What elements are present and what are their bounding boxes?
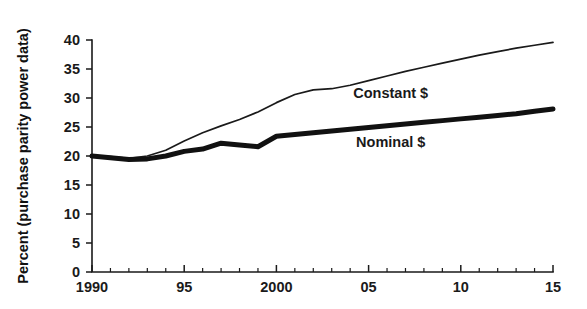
- y-tick-label: 20: [64, 148, 80, 164]
- line-chart: Percent (purchase parity power data) 051…: [0, 0, 587, 309]
- x-tick-label: 10: [453, 279, 469, 295]
- y-tick-label: 40: [64, 32, 80, 48]
- y-tick-label: 10: [64, 206, 80, 222]
- y-tick-label: 30: [64, 90, 80, 106]
- x-tick-label: 1990: [76, 279, 108, 295]
- x-tick-label: 95: [176, 279, 192, 295]
- x-tick-label: 2000: [260, 279, 292, 295]
- y-tick-label: 0: [72, 264, 80, 280]
- y-tick-label: 5: [72, 235, 80, 251]
- series-line-constant: [92, 42, 553, 158]
- y-axis-ticks: 0510152025303540: [64, 32, 92, 280]
- y-tick-label: 35: [64, 61, 80, 77]
- annotation-label-constant: Constant $: [353, 85, 428, 101]
- y-axis-title: Percent (purchase parity power data): [15, 28, 31, 284]
- x-tick-label: 15: [545, 279, 561, 295]
- y-axis-title-group: Percent (purchase parity power data): [15, 28, 31, 284]
- chart-figure: Percent (purchase parity power data) 051…: [0, 0, 587, 309]
- x-axis-ticks: 1990952000051015: [76, 265, 561, 295]
- y-tick-label: 15: [64, 177, 80, 193]
- series-group: [92, 42, 553, 159]
- series-annotations: Constant $Nominal $: [353, 85, 428, 150]
- y-tick-label: 25: [64, 119, 80, 135]
- x-tick-label: 05: [361, 279, 377, 295]
- annotation-label-nominal: Nominal $: [356, 134, 425, 150]
